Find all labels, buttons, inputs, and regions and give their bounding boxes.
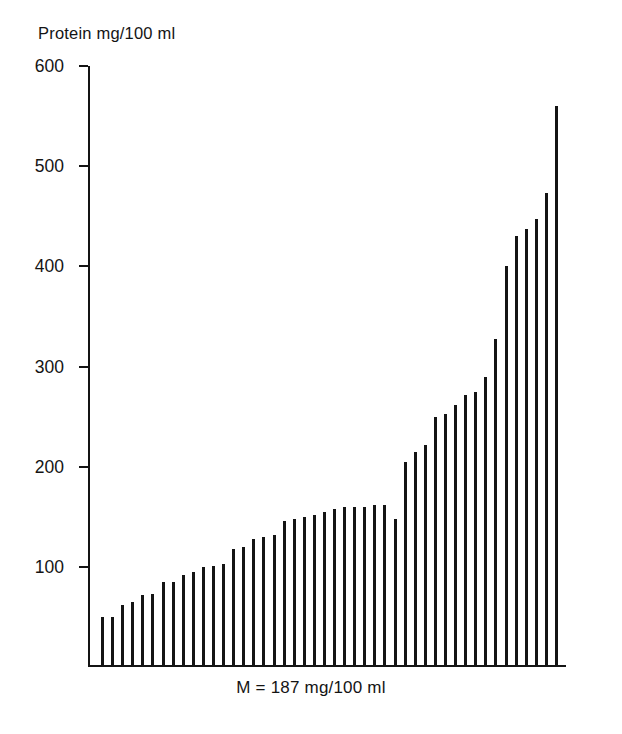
bar xyxy=(343,507,346,667)
bar xyxy=(464,395,467,667)
bar xyxy=(404,462,407,667)
bar xyxy=(424,445,427,667)
chart-figure: Protein mg/100 ml 100200300400500600 M =… xyxy=(0,0,622,734)
y-axis-tick-label: 600 xyxy=(35,56,64,77)
y-axis-tick xyxy=(79,165,88,167)
bar xyxy=(434,417,437,667)
bar xyxy=(151,594,154,667)
bar xyxy=(202,567,205,667)
bar xyxy=(222,564,225,667)
plot-area: 100200300400500600 xyxy=(88,66,566,667)
bar xyxy=(192,572,195,667)
bar xyxy=(505,266,508,667)
bar xyxy=(232,549,235,667)
bar xyxy=(101,617,104,667)
bar-series xyxy=(88,66,566,667)
bar xyxy=(515,236,518,667)
bar xyxy=(414,452,417,667)
bar xyxy=(273,535,276,667)
mean-caption: M = 187 mg/100 ml xyxy=(0,678,622,698)
bar xyxy=(313,515,316,667)
bar xyxy=(545,193,548,667)
bar xyxy=(394,519,397,667)
y-axis-tick xyxy=(79,566,88,568)
bar xyxy=(303,517,306,667)
y-axis-tick-label: 100 xyxy=(35,556,64,577)
bar xyxy=(252,539,255,667)
bar xyxy=(373,505,376,667)
y-axis-tick xyxy=(79,65,88,67)
chart-title: Protein mg/100 ml xyxy=(38,24,175,43)
bar xyxy=(111,617,114,667)
mean-caption-text: M = 187 mg/100 ml xyxy=(236,678,385,697)
bar xyxy=(283,521,286,667)
y-axis-tick-label: 200 xyxy=(35,456,64,477)
bar xyxy=(363,507,366,667)
bar xyxy=(555,106,558,667)
bar xyxy=(293,519,296,667)
y-axis-tick-label: 300 xyxy=(35,356,64,377)
bar xyxy=(212,566,215,667)
y-axis-tick xyxy=(79,265,88,267)
y-axis-tick xyxy=(79,366,88,368)
bar xyxy=(383,505,386,667)
bar xyxy=(353,507,356,667)
bar xyxy=(535,219,538,667)
y-axis-tick-label: 500 xyxy=(35,156,64,177)
bar xyxy=(121,605,124,667)
bar xyxy=(323,512,326,667)
bar xyxy=(333,509,336,667)
bar xyxy=(454,405,457,667)
y-axis-tick xyxy=(79,466,88,468)
bar xyxy=(182,575,185,667)
bar xyxy=(494,339,497,667)
bar xyxy=(484,377,487,667)
bar xyxy=(262,537,265,667)
y-axis-tick-label: 400 xyxy=(35,256,64,277)
bar xyxy=(131,602,134,667)
bar xyxy=(242,547,245,667)
bar xyxy=(444,414,447,667)
bar xyxy=(474,392,477,667)
bar xyxy=(141,595,144,667)
bar xyxy=(162,582,165,667)
bar xyxy=(525,229,528,667)
bar xyxy=(172,582,175,667)
